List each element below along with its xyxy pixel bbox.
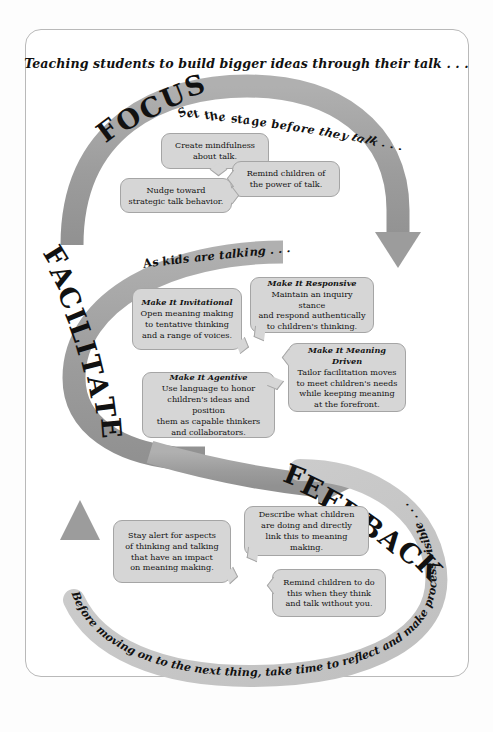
callout-line: and a range of voices. [142, 330, 232, 340]
callout-make-it-invitational: Make It Invitational Open meaning making… [132, 288, 242, 350]
callout-line: to meet children's needs [297, 378, 398, 388]
callout-focus-nudge-strategic: Nudge toward strategic talk behavior. [120, 178, 232, 213]
callout-line: are doing and directly [261, 520, 352, 530]
callout-line: the power of talk. [250, 179, 323, 189]
callout-stay-alert: Stay alert for aspects of thinking and t… [113, 520, 231, 583]
callout-line: Maintain an inquiry stance [271, 289, 352, 310]
callout-line: link this to meaning making. [266, 531, 348, 552]
callout-line: while keeping meaning [299, 388, 394, 398]
callout-describe-what-children: Describe what children are doing and dir… [244, 506, 369, 556]
callout-line: this when they think [287, 588, 371, 598]
arrow-ribbon-artwork [0, 0, 493, 732]
callout-heading: Make It Responsive [258, 278, 366, 289]
callout-line: on meaning making. [130, 562, 214, 572]
callout-line: children's ideas and position [167, 394, 249, 415]
callout-line: them as capable thinkers [157, 416, 261, 426]
callout-line: and collaborators. [171, 427, 246, 437]
callout-line: of thinking and talking [125, 541, 219, 551]
callout-make-it-agentive: Make It Agentive Use language to honor c… [142, 372, 275, 438]
callout-line: at the forefront. [314, 399, 380, 409]
callout-heading: Make It Agentive [150, 372, 267, 383]
callout-make-it-meaning-driven: Make It Meaning Driven Tailor facilitati… [288, 343, 406, 412]
callout-line: Tailor facilitation moves [298, 367, 397, 377]
callout-heading: Make It Invitational [140, 297, 234, 308]
callout-line: Stay alert for aspects [128, 530, 216, 540]
callout-line: Open meaning making [141, 308, 234, 318]
callout-line: Describe what children [259, 509, 355, 519]
callout-line: strategic talk behavior. [129, 196, 224, 206]
callout-line: Remind children to do [283, 577, 374, 587]
page-title: Teaching students to build bigger ideas … [0, 56, 493, 71]
callout-line: Remind children of [247, 168, 326, 178]
infographic-page: Teaching students to build bigger ideas … [0, 0, 493, 732]
callout-line: and talk without you. [285, 598, 372, 608]
callout-heading: Make It Meaning Driven [296, 345, 398, 367]
callout-line: to children's thinking. [267, 321, 357, 331]
callout-line: and respond authentically [258, 310, 365, 320]
callout-line: about talk. [193, 151, 237, 161]
callout-make-it-responsive: Make It Responsive Maintain an inquiry s… [250, 277, 374, 333]
callout-line: Nudge toward [147, 185, 206, 195]
callout-line: Create mindfulness [175, 140, 255, 150]
callout-remind-children-to-do: Remind children to do this when they thi… [272, 569, 386, 617]
callout-line: Use language to honor [162, 383, 255, 393]
callout-focus-remind-power: Remind children of the power of talk. [232, 161, 340, 197]
callout-line: to tentative thinking [145, 319, 229, 329]
callout-line: that have an impact [131, 552, 213, 562]
